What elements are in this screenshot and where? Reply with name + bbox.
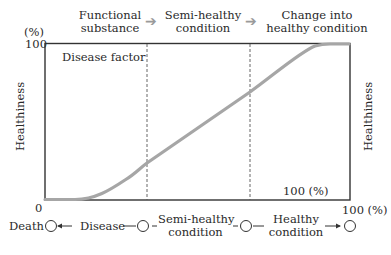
semi-healthy-circle-icon: [241, 221, 252, 232]
arrow-right-icon: [336, 224, 341, 229]
semi-healthy-condition-label: Semi-healthy condition: [158, 213, 233, 239]
arrow-left-icon: [57, 224, 62, 229]
healthy-condition-label: Healthy condition: [266, 213, 326, 239]
disease-label: Disease: [80, 220, 125, 233]
disease-semi-circle-icon: [138, 221, 149, 232]
healthy-end-circle-icon: [345, 221, 356, 232]
semi-label-line2: condition: [158, 226, 233, 239]
healthy-label-line2: condition: [266, 226, 326, 239]
death-circle-icon: [46, 221, 57, 232]
